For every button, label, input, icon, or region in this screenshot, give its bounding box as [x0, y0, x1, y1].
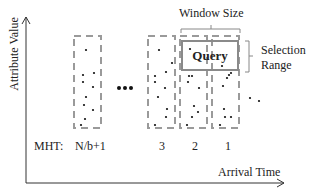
mht-window-label-nb1: N/b+1 [75, 140, 106, 152]
mht-label: MHT: [34, 140, 63, 152]
selection-range-label-line1: Selection [261, 44, 306, 56]
query-rectangle: Query [181, 40, 239, 71]
x-axis-label: Arrival Time [218, 166, 280, 178]
query-label: Query [192, 48, 227, 64]
diagram-canvas: Attribute Value Window Size Query Select… [0, 0, 314, 191]
mht-window-label-3: 3 [159, 140, 165, 152]
mht-window-label-1: 1 [225, 140, 231, 152]
axes [22, 17, 284, 187]
diagram-graphics [0, 0, 314, 191]
mht-window-label-2: 2 [192, 140, 198, 152]
selection-range-label-line2: Range [261, 59, 292, 71]
y-axis-label: Attribute Value [8, 12, 20, 96]
window-size-bracket [181, 29, 240, 33]
selection-range-bracket [245, 41, 249, 72]
window-box-nb1 [74, 36, 101, 128]
window-box-3 [148, 36, 175, 128]
window-size-label: Window Size [179, 7, 244, 19]
